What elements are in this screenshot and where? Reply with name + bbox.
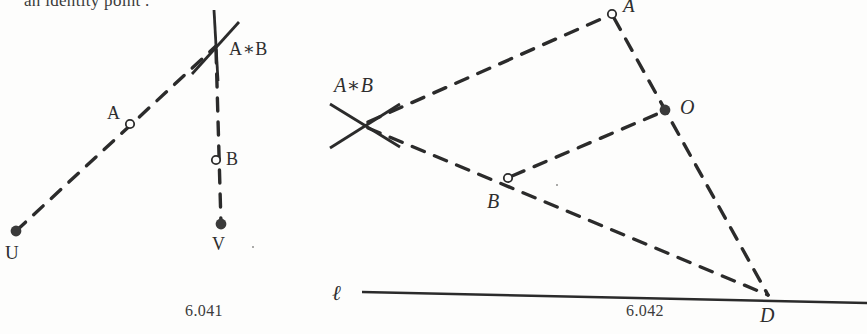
point-label-U: U [5,243,19,262]
AstarB-to-A [368,16,608,122]
point-label-O: O [680,97,694,117]
point-label-A-right: A [623,0,635,15]
line-label-ell: ℓ [332,283,341,304]
scan-speck [252,246,254,248]
A-to-D [614,18,768,295]
point-label-a-star-b-right: A∗B [334,75,374,95]
point-marker-B-open [504,174,512,182]
point-label-B-right: B [487,191,499,211]
point-marker-O-filled [660,105,671,116]
figure-caption-6041: 6.041 [185,302,223,320]
figures-drawing-canvas [0,0,867,334]
point-marker-B-open [212,156,220,164]
point-label-a-star-b-left: A∗B [229,40,268,58]
point-marker-V-filled [216,219,227,230]
point-marker-U-filled [11,226,22,237]
figure-caption-6042: 6.042 [626,302,664,320]
point-label-D: D [760,305,774,325]
scan-speck [556,184,558,186]
U-to-AstarB [16,46,216,231]
fig-6041 [11,10,239,236]
point-marker-A-open [126,120,134,128]
fig-6042 [330,10,867,303]
point-marker-A-open [608,10,616,18]
line-ell [362,292,867,303]
point-label-V: V [212,235,225,253]
scanned-figure-page: an identity point . U A B V A∗B A B O D … [0,0,867,334]
point-label-A-left: A [107,104,120,122]
B-to-O [512,112,662,176]
point-label-B-left: B [226,150,238,168]
